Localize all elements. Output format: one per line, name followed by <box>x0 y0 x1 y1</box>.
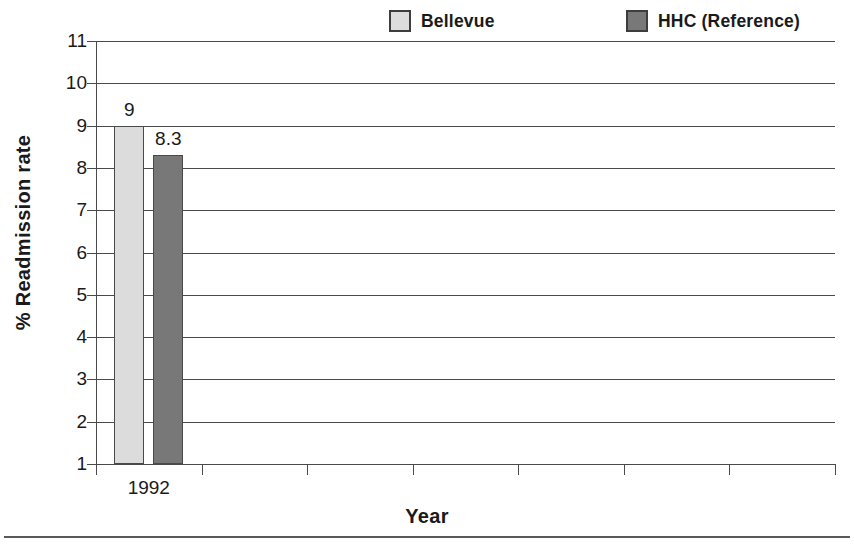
gridline <box>96 210 835 211</box>
y-axis-tick <box>87 464 96 465</box>
bottom-rule <box>4 536 850 538</box>
x-axis-tick <box>518 464 519 475</box>
gridline <box>96 168 835 169</box>
y-axis-tick-label: 5 <box>27 284 87 306</box>
bar-bellevue <box>114 126 144 464</box>
y-axis-tick <box>87 337 96 338</box>
x-axis-title: Year <box>0 505 854 528</box>
gridline <box>96 83 835 84</box>
chart-figure: BellevueHHC (Reference) % Readmission ra… <box>0 0 854 545</box>
y-axis-tick-label: 10 <box>27 72 87 94</box>
y-axis-tick <box>87 422 96 423</box>
y-axis-title: % Readmission rate <box>6 0 42 464</box>
y-axis-tick-label: 9 <box>27 115 87 137</box>
x-axis-category-label: 1992 <box>128 477 170 499</box>
y-axis-tick <box>87 379 96 380</box>
y-axis-tick-label: 6 <box>27 242 87 264</box>
y-axis-tick <box>87 295 96 296</box>
y-axis-tick <box>87 210 96 211</box>
x-axis-tick <box>96 464 97 475</box>
y-axis-tick <box>87 41 96 42</box>
legend-item-label: Bellevue <box>421 11 495 32</box>
y-axis-tick-label: 8 <box>27 157 87 179</box>
x-axis-tick <box>729 464 730 475</box>
legend-swatch-icon <box>626 10 648 32</box>
x-axis-tick <box>624 464 625 475</box>
legend-item[interactable]: Bellevue <box>389 10 495 32</box>
gridline <box>96 379 835 380</box>
gridline <box>96 422 835 423</box>
chart-legend: BellevueHHC (Reference) <box>0 6 854 40</box>
gridline <box>96 126 835 127</box>
y-axis-tick <box>87 168 96 169</box>
y-axis-tick-label: 3 <box>27 368 87 390</box>
x-axis-tick <box>202 464 203 475</box>
x-axis-tick <box>413 464 414 475</box>
bar-value-label: 9 <box>124 99 135 121</box>
y-axis-tick-label: 11 <box>27 30 87 52</box>
y-axis-tick-label: 1 <box>27 453 87 475</box>
y-axis-tick-label: 4 <box>27 326 87 348</box>
x-axis-line <box>96 464 835 465</box>
x-axis-tick <box>835 464 836 475</box>
plot-area: 123456789101198.31992 <box>96 41 835 464</box>
gridline <box>96 295 835 296</box>
legend-item[interactable]: HHC (Reference) <box>626 10 800 32</box>
legend-swatch-icon <box>389 10 411 32</box>
y-axis-tick-label: 2 <box>27 411 87 433</box>
y-axis-tick-label: 7 <box>27 199 87 221</box>
legend-item-label: HHC (Reference) <box>658 11 800 32</box>
gridline <box>96 337 835 338</box>
x-axis-tick <box>307 464 308 475</box>
y-axis-tick <box>87 83 96 84</box>
y-axis-tick <box>87 126 96 127</box>
gridline <box>96 41 835 42</box>
gridline <box>96 253 835 254</box>
bar-value-label: 8.3 <box>155 128 181 150</box>
bar-hhc-reference <box>153 155 183 464</box>
y-axis-tick <box>87 253 96 254</box>
